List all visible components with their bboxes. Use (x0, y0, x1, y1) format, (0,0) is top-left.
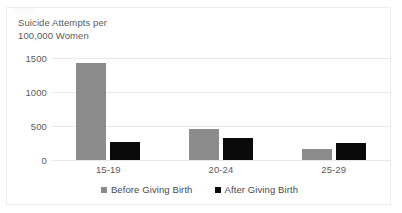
chart-legend: Before Giving BirthAfter Giving Birth (7, 184, 392, 195)
bar-20-24-before (189, 129, 219, 160)
legend-swatch-icon (215, 187, 221, 193)
legend-label: After Giving Birth (225, 184, 299, 195)
legend-swatch-icon (101, 187, 107, 193)
bar-25-29-after (336, 143, 366, 160)
y-axis-tick-label: 1000 (7, 87, 47, 98)
top-edge-artifact (13, 8, 35, 14)
plot-area (52, 58, 390, 160)
chart-container: Suicide Attempts per 100,000 Women 05001… (6, 7, 391, 205)
chart-title: Suicide Attempts per 100,000 Women (18, 17, 218, 42)
x-axis-tick-label: 25-29 (277, 164, 390, 175)
x-axis-tick-label: 20-24 (165, 164, 278, 175)
x-axis: 15-1920-2425-29 (52, 164, 390, 178)
bar-25-29-before (302, 149, 332, 160)
bar-20-24-after (223, 138, 253, 160)
gridline (52, 58, 390, 59)
y-axis: 050010001500 (7, 58, 47, 160)
bar-15-19-after (110, 142, 140, 160)
y-axis-tick-label: 500 (7, 121, 47, 132)
y-axis-tick-label: 0 (7, 155, 47, 166)
bar-15-19-before (76, 63, 106, 160)
legend-label: Before Giving Birth (111, 184, 193, 195)
legend-item-before[interactable]: Before Giving Birth (101, 184, 193, 195)
legend-item-after[interactable]: After Giving Birth (215, 184, 299, 195)
y-axis-tick-label: 1500 (7, 53, 47, 64)
x-axis-tick-label: 15-19 (52, 164, 165, 175)
gridline (52, 160, 390, 161)
